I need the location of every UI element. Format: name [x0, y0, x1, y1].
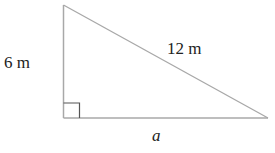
horizontal-leg-label: a	[152, 126, 161, 145]
hypotenuse	[64, 5, 269, 118]
hypotenuse-label: 12 m	[167, 39, 201, 58]
vertical-leg-label: 6 m	[4, 53, 30, 72]
triangle	[64, 5, 269, 118]
right-triangle-diagram: 6 m 12 m a	[0, 0, 275, 153]
right-angle-marker	[64, 103, 80, 118]
